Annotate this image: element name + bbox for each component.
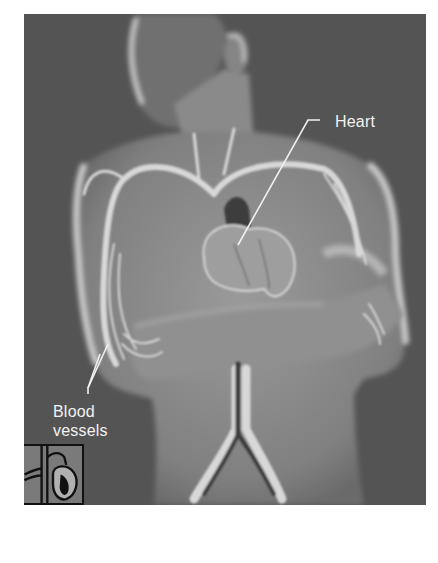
blood-vessels-label-line2: vessels [53, 421, 108, 440]
blood-vessels-label: Blood vessels [53, 402, 108, 440]
circulatory-system-illustration: Heart Blood vessels [24, 14, 426, 505]
heart-inset-icon [24, 446, 82, 503]
blood-vessels-label-line1: Blood [53, 402, 108, 421]
heart-label: Heart [335, 112, 375, 131]
heart-diagram-icon [24, 444, 84, 505]
